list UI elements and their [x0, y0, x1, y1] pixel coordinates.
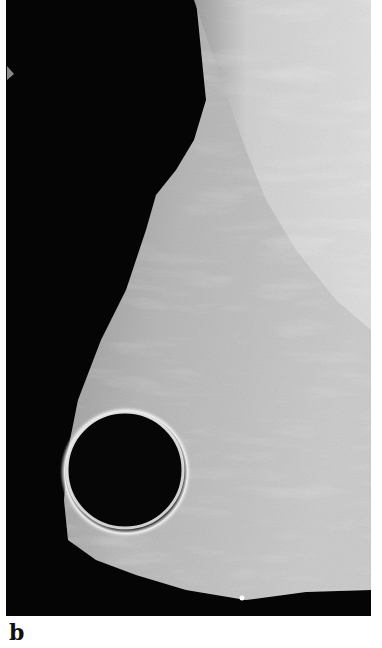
skin-marker-dot — [240, 596, 245, 601]
mammogram-graphic — [6, 0, 371, 616]
panel-label: b — [9, 621, 24, 643]
mammogram-image — [6, 0, 371, 616]
